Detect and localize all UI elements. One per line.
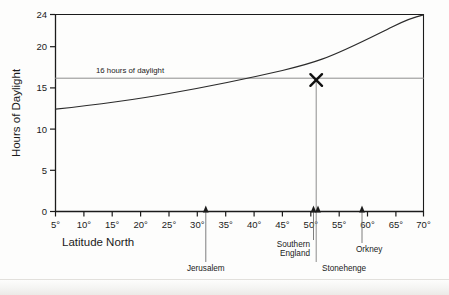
x-tick-label-30: 30° — [190, 219, 205, 230]
x-axis-tick-labels: 5° 10° 15° 20° 25° 30° 35° 40° 45° 50° 5… — [51, 219, 431, 230]
scan-edge-shadow — [0, 279, 449, 295]
y-tick-label-15: 15 — [36, 82, 47, 93]
marker-southern-england-label-line1: Southern — [277, 240, 311, 249]
x-tick-label-65: 65° — [389, 219, 404, 230]
x-axis-title: Latitude North — [62, 236, 134, 248]
x-tick-label-15: 15° — [105, 219, 120, 230]
x-tick-label-60: 60° — [360, 219, 375, 230]
reference-line-label: 16 hours of daylight — [96, 66, 165, 75]
y-axis-tick-labels: 0 5 10 15 20 24 — [36, 9, 47, 217]
y-tick-label-20: 20 — [36, 41, 47, 52]
x-tick-label-35: 35° — [219, 219, 234, 230]
x-tick-label-70: 70° — [416, 219, 431, 230]
marker-jerusalem: Jerusalem — [187, 206, 225, 274]
x-tick-label-55: 55° — [332, 219, 347, 230]
marker-stonehenge: Stonehenge — [315, 206, 367, 274]
x-tick-label-40: 40° — [247, 219, 262, 230]
y-tick-label-24: 24 — [36, 9, 47, 20]
marker-southern-england-label-line2: England — [280, 249, 310, 258]
x-tick-label-10: 10° — [77, 219, 92, 230]
x-tick-label-20: 20° — [133, 219, 148, 230]
marker-jerusalem-label: Jerusalem — [187, 264, 225, 273]
x-tick-label-45: 45° — [275, 219, 290, 230]
marker-orkney-label: Orkney — [356, 245, 383, 254]
x-tick-label-5: 5° — [51, 219, 60, 230]
marker-stonehenge-label: Stonehenge — [322, 264, 367, 273]
x-tick-label-25: 25° — [162, 219, 177, 230]
y-tick-label-5: 5 — [42, 165, 47, 176]
y-axis-title: Hours of Daylight — [10, 68, 22, 157]
y-tick-label-0: 0 — [42, 206, 47, 217]
y-tick-label-10: 10 — [36, 124, 47, 135]
daylight-curve — [56, 15, 424, 109]
y-axis-ticks — [50, 15, 55, 212]
x-axis-ticks — [56, 212, 424, 217]
